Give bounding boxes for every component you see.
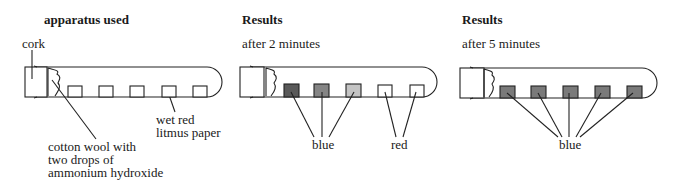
- litmus-papers-2min: [284, 84, 424, 97]
- pointers-2min: [291, 92, 416, 137]
- test-tube-2min: [240, 66, 437, 98]
- cotton-wool: [484, 69, 494, 97]
- cork: [25, 67, 47, 97]
- pointers-5min: [507, 93, 633, 137]
- cork: [460, 68, 484, 98]
- test-tube-apparatus: [25, 50, 222, 139]
- diagram-canvas: [0, 0, 676, 187]
- litmus-papers-5min: [500, 86, 642, 98]
- cotton-wool: [266, 68, 276, 96]
- litmus-papers-apparatus: [68, 86, 207, 97]
- cork: [240, 67, 264, 97]
